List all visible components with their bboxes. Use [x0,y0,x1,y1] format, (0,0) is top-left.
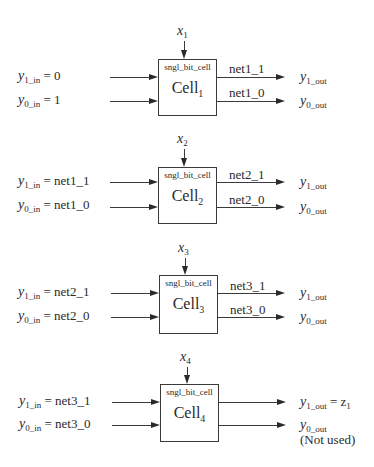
cell-type-label: sngl_bit_cell [161,387,218,397]
cell-name: Cell1 [159,79,216,99]
net-0-label: net3_0 [230,303,265,316]
y1-in-arrowhead-icon [150,290,159,296]
x-input-label: x1 [177,24,188,40]
y0-out-arrowhead-icon [277,422,286,428]
y1-in-label: y1_in = 0 [18,69,61,85]
y1-out-arrowhead-icon [276,179,285,185]
y1-out-line [219,402,278,403]
cell-type-label: sngl_bit_cell [159,170,216,180]
y1-out-label: y1_out [300,175,327,191]
net-0-label: net1_0 [229,86,264,99]
y0-out-line [217,207,277,208]
y1-in-line [110,182,150,183]
y0-in-label: y0_in = 1 [18,93,61,109]
y1-in-label: y1_in = net1_1 [18,174,89,190]
cell-type-label: sngl_bit_cell [159,62,216,72]
y0-in-arrowhead-icon [150,314,159,320]
cascaded-cell-diagram: x1 y1_in = 0 y0_in = 1 sngl_bit_cell Cel… [0,0,374,467]
cell-box-4: sngl_bit_cell Cell4 [160,384,219,442]
x-input-label: x2 [177,132,188,148]
y1-in-line [110,77,150,78]
x-input-arrowhead-icon [182,266,188,275]
y0-out-line [218,317,277,318]
y1-in-label: y1_in = net2_1 [18,285,89,301]
y0-in-label: y0_in = net1_0 [18,198,89,214]
y1-in-line [112,402,152,403]
cell-stage-4: x4 y1_in = net3_1 y0_in = net3_0 sngl_bi… [0,326,374,467]
y1-out-line [217,77,277,78]
y0-in-arrowhead-icon [149,98,158,104]
y1-in-label: y1_in = net3_1 [19,394,90,410]
y0-in-line [110,101,150,102]
x-input-arrowhead-icon [184,375,190,384]
y0-in-label: y0_in = net2_0 [18,309,89,325]
y0-out-label: y0_out [300,200,327,216]
y0-out-line [219,425,278,426]
x-input-arrowhead-icon [181,158,187,167]
y0-out-arrowhead-icon [276,314,285,320]
cell-stage-1: x1 y1_in = 0 y0_in = 1 sngl_bit_cell Cel… [0,0,374,110]
y1-in-arrowhead-icon [151,399,160,405]
cell-type-label: sngl_bit_cell [160,278,217,288]
y0-out-line [217,101,277,102]
x-input-arrowhead-icon [181,50,187,59]
cell-name: Cell4 [161,404,218,424]
x-input-label: x4 [180,350,191,366]
cell-box-2: sngl_bit_cell Cell2 [158,167,217,224]
y0-in-arrowhead-icon [149,204,158,210]
y0-in-line [110,207,150,208]
y0-in-arrowhead-icon [151,422,160,428]
not-used-note: (Not used) [300,433,355,446]
y1-out-label: y1_out [300,286,327,302]
net-1-label: net2_1 [229,168,264,181]
cell-name: Cell3 [160,295,217,315]
y0-in-line [112,425,152,426]
cell-name: Cell2 [159,187,216,207]
y1-in-arrowhead-icon [149,179,158,185]
y1-in-line [111,293,151,294]
net-0-label: net2_0 [229,193,264,206]
y1-out-line [218,293,277,294]
y1-out-arrowhead-icon [276,290,285,296]
cell-stage-3: x3 y1_in = net2_1 y0_in = net2_0 sngl_bi… [0,217,374,327]
y0-out-label: y0_out [300,310,327,326]
y1-out-label: y1_out [300,70,327,86]
y1-in-arrowhead-icon [149,74,158,80]
y0-out-arrowhead-icon [276,98,285,104]
x-input-label: x3 [178,241,189,257]
y1-out-line [217,182,277,183]
y0-out-arrowhead-icon [276,204,285,210]
y0-in-label: y0_in = net3_0 [19,417,90,433]
y0-in-line [111,317,151,318]
net-1-label: net3_1 [230,279,265,292]
net-1-label: net1_1 [229,62,264,75]
y1-out-arrowhead-icon [277,399,286,405]
y1-out-label: y1_out = z1 [300,395,351,411]
cell-stage-2: x2 y1_in = net1_1 y0_in = net1_0 sngl_bi… [0,108,374,218]
y1-out-arrowhead-icon [276,74,285,80]
